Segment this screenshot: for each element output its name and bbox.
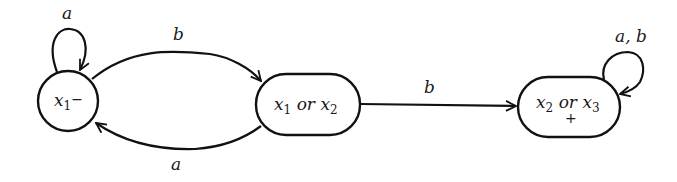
transition-label: a, b: [615, 26, 647, 46]
state-x1-initial: x1−: [38, 71, 98, 131]
transition-label: a: [62, 3, 72, 23]
state-x1-or-x2: x1 or x2: [256, 74, 360, 135]
final-state-mark: +: [565, 110, 577, 126]
state-x2-or-x3-final: x2 or x3 +: [518, 77, 620, 137]
transition-label: a: [171, 154, 181, 174]
loop-arrow-icon: [53, 29, 86, 72]
transition-label: b: [173, 24, 184, 44]
arrow-icon: [92, 52, 261, 81]
state-label: x1 or x2: [274, 94, 338, 117]
transition-label: b: [424, 77, 435, 97]
transition-s2-s1: a: [96, 123, 261, 174]
arrow-icon: [96, 123, 261, 149]
transition-s1-s1: a: [53, 3, 86, 72]
automaton-diagram: a b a b a, b x1− x1 or x2 x2 or x3 +: [0, 0, 677, 182]
transition-s2-s3: b: [360, 77, 516, 106]
transition-s1-s2: b: [92, 24, 261, 81]
arrow-icon: [360, 104, 516, 106]
